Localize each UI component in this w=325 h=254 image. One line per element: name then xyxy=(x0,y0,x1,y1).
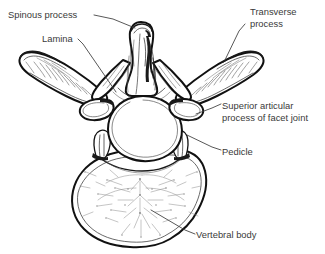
label-spinous-process: Spinous process xyxy=(8,9,78,20)
spinous-process-illustration xyxy=(126,22,158,96)
label-transverse-process-line1: Transverse xyxy=(250,6,297,17)
vertebra-anatomy-figure: Spinous process Lamina Transverse proces… xyxy=(0,0,325,254)
label-pedicle: Pedicle xyxy=(222,146,253,157)
label-superior-articular-line2: process of facet joint xyxy=(222,112,308,123)
leader-pedicle xyxy=(187,135,221,150)
leader-spinous-process xyxy=(94,15,135,28)
label-superior-articular-line1: Superior articular xyxy=(222,100,293,111)
label-vertebral-body: Vertebral body xyxy=(196,229,257,240)
vertebral-body-illustration xyxy=(72,149,206,247)
label-lamina: Lamina xyxy=(42,33,74,44)
label-transverse-process-line2: process xyxy=(250,18,283,29)
